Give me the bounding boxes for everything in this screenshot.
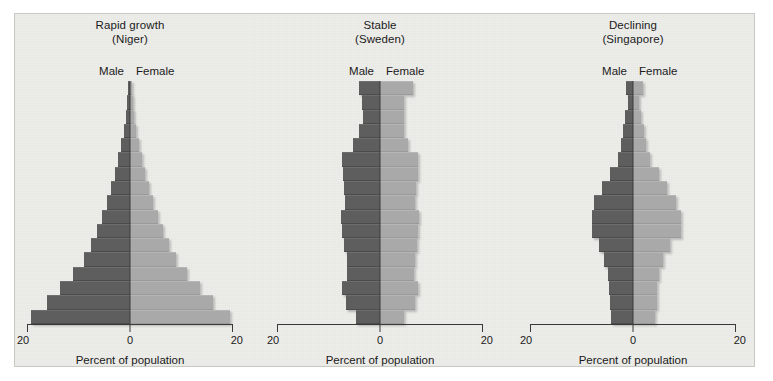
male-half [277, 181, 380, 195]
female-bar [633, 110, 641, 124]
female-bar [380, 138, 408, 152]
male-bar [342, 224, 380, 238]
male-half [27, 110, 130, 124]
female-bar [380, 124, 404, 138]
male-half [27, 152, 130, 166]
male-half [530, 267, 633, 281]
female-bar [633, 95, 639, 109]
female-half [130, 152, 233, 166]
panel-title-line2: (Singapore) [508, 33, 758, 47]
male-half [27, 210, 130, 224]
panel-stable: Stable (Sweden) Male Female 20 0 20 Perc… [255, 13, 505, 368]
x-axis [27, 324, 233, 333]
tick-label-left: 20 [267, 334, 279, 346]
female-half [633, 295, 736, 309]
female-half [633, 195, 736, 209]
panel-title: Rapid growth (Niger) [5, 19, 255, 46]
female-bar [130, 124, 136, 138]
female-half [130, 267, 233, 281]
female-bar [380, 267, 414, 281]
male-half [277, 295, 380, 309]
female-half [380, 238, 483, 252]
male-bar [342, 152, 380, 166]
male-half [27, 167, 130, 181]
female-half [633, 110, 736, 124]
female-bar [380, 195, 415, 209]
male-bar [345, 195, 380, 209]
male-half [530, 124, 633, 138]
male-half [530, 167, 633, 181]
female-half [633, 81, 736, 95]
female-bar [130, 238, 169, 252]
male-bar [347, 267, 380, 281]
female-bar [130, 138, 139, 152]
female-half [130, 310, 233, 324]
male-half [277, 138, 380, 152]
male-half [27, 224, 130, 238]
female-bar [130, 267, 187, 281]
axis-tick-left [530, 324, 531, 332]
female-bar [633, 167, 659, 181]
panel-title-line2: (Niger) [5, 33, 255, 47]
male-half [530, 138, 633, 152]
male-bar [618, 152, 633, 166]
male-half [277, 224, 380, 238]
male-bar [342, 281, 380, 295]
male-half [277, 95, 380, 109]
male-bar [363, 110, 381, 124]
male-half [530, 95, 633, 109]
female-half [130, 124, 233, 138]
male-half [277, 267, 380, 281]
male-half [530, 224, 633, 238]
axis-tick-left [27, 324, 28, 332]
male-bar [608, 267, 633, 281]
female-bar [380, 210, 419, 224]
male-half [277, 281, 380, 295]
male-half [530, 81, 633, 95]
male-half [277, 124, 380, 138]
male-bar [341, 210, 380, 224]
female-bar [633, 281, 657, 295]
female-bar [633, 310, 655, 324]
male-half [27, 310, 130, 324]
sex-labels: Male Female [508, 65, 758, 79]
panel-declining: Declining (Singapore) Male Female 20 0 2… [508, 13, 758, 368]
male-label: Male [602, 65, 627, 77]
male-bar [31, 310, 130, 324]
male-half [530, 252, 633, 266]
male-bar [610, 167, 633, 181]
male-half [277, 81, 380, 95]
female-bar [633, 138, 646, 152]
panel-title: Declining (Singapore) [508, 19, 758, 46]
panel-title: Stable (Sweden) [255, 19, 505, 46]
female-half [130, 281, 233, 295]
female-half [380, 110, 483, 124]
female-half [380, 195, 483, 209]
female-bar [130, 310, 230, 324]
male-bar [359, 81, 380, 95]
panel-title-line2: (Sweden) [255, 33, 505, 47]
female-bar [380, 281, 418, 295]
female-half [380, 181, 483, 195]
male-label: Male [99, 65, 124, 77]
axis-tick-labels: 20 0 20 [530, 334, 736, 348]
male-bar [604, 252, 633, 266]
axis-tick-center [633, 324, 634, 332]
female-half [380, 152, 483, 166]
female-bar [380, 295, 415, 309]
male-bar [84, 252, 130, 266]
female-half [130, 295, 233, 309]
male-half [530, 110, 633, 124]
male-half [530, 152, 633, 166]
male-bar [73, 267, 130, 281]
panel-rapid-growth: Rapid growth (Niger) Male Female 20 0 20… [5, 13, 255, 368]
female-bar [633, 295, 657, 309]
female-bar [380, 110, 404, 124]
panel-title-line1: Declining [609, 19, 657, 31]
female-bar [130, 252, 176, 266]
male-half [27, 81, 130, 95]
male-label: Male [349, 65, 374, 77]
female-half [633, 267, 736, 281]
center-axis-line [130, 81, 131, 324]
male-bar [594, 195, 633, 209]
